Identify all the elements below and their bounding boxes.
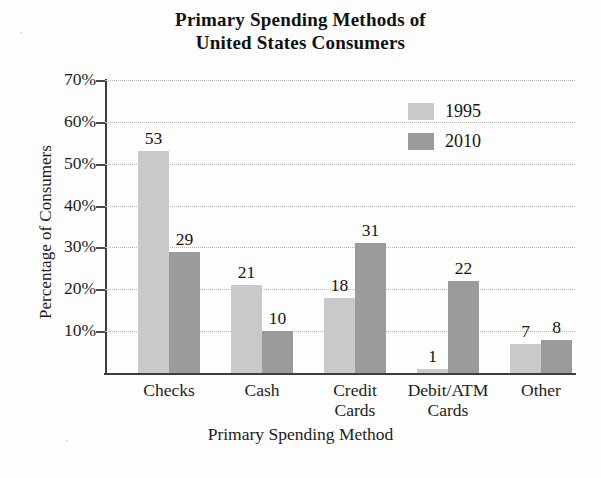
x-axis-category-label: Checks: [121, 380, 217, 400]
y-axis-tick: [96, 164, 105, 166]
y-axis-tick-label: 10%: [34, 320, 96, 341]
x-axis-category-label: Cash: [214, 380, 310, 400]
category-label-line-1: Credit: [333, 380, 377, 400]
x-axis-line: [104, 373, 576, 375]
x-axis-category-label: Debit/ATMCards: [400, 380, 496, 420]
bar-value-label: 22: [441, 258, 486, 279]
y-axis-tick-label: 70%: [34, 69, 96, 90]
bar: [355, 243, 386, 373]
legend-item: 1995: [408, 96, 538, 126]
legend-item: 2010: [408, 126, 538, 156]
y-axis-tick-label: 50%: [34, 153, 96, 174]
bar-value-label: 1: [410, 346, 455, 367]
category-label-line-1: Debit/ATM: [408, 380, 489, 400]
y-axis-tick: [96, 206, 105, 208]
bar-value-label: 10: [255, 308, 300, 329]
bar: [541, 340, 572, 373]
x-axis-category-label: CreditCards: [307, 380, 403, 420]
chart-title-line-1: Primary Spending Methods of: [0, 8, 601, 31]
x-axis-category-label: Other: [493, 380, 589, 400]
gridline: [105, 206, 575, 207]
bar-value-label: 31: [348, 220, 393, 241]
gridline: [105, 80, 575, 81]
y-axis-tick-label: 40%: [34, 195, 96, 216]
bar: [510, 344, 541, 373]
scan-speck: [66, 440, 68, 442]
bar-value-label: 8: [534, 317, 579, 338]
bar-value-label: 18: [317, 275, 362, 296]
y-axis-tick-label: 60%: [34, 111, 96, 132]
y-axis-tick-label: 30%: [34, 236, 96, 257]
bar-value-label: 29: [162, 229, 207, 250]
category-label-line-1: Checks: [143, 380, 195, 400]
category-label-line-2: Cards: [400, 400, 496, 420]
legend: 19952010: [408, 96, 538, 156]
scan-speck: [20, 32, 22, 34]
bar: [324, 298, 355, 373]
bar: [417, 369, 448, 373]
y-axis-tick: [96, 80, 105, 82]
chart-title-line-2: United States Consumers: [0, 31, 601, 54]
category-label-line-1: Cash: [245, 380, 280, 400]
y-axis-tick: [96, 331, 105, 333]
bar: [169, 252, 200, 373]
legend-swatch: [408, 133, 434, 150]
bar-value-label: 53: [131, 128, 176, 149]
y-axis-tick: [96, 122, 105, 124]
legend-swatch: [408, 103, 434, 120]
y-axis-tick: [96, 289, 105, 291]
category-label-line-1: Other: [521, 380, 561, 400]
bar-value-label: 21: [224, 262, 269, 283]
y-axis-tick: [96, 247, 105, 249]
legend-label: 2010: [445, 131, 481, 152]
legend-label: 1995: [445, 101, 481, 122]
gridline: [105, 164, 575, 165]
x-axis-title: Primary Spending Method: [0, 424, 601, 445]
y-axis-tick-label: 20%: [34, 278, 96, 299]
category-label-line-2: Cards: [307, 400, 403, 420]
bar: [262, 331, 293, 373]
bar: [138, 151, 169, 373]
chart-figure: Primary Spending Methods of United State…: [0, 0, 601, 478]
chart-title: Primary Spending Methods of United State…: [0, 8, 601, 54]
